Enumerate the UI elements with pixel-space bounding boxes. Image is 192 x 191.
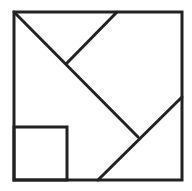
diagram-canvas	[0, 0, 192, 191]
small-square	[14, 127, 67, 180]
tangram-diagram	[0, 0, 192, 191]
main-diagonal-line	[14, 12, 138, 137]
upper-diagonal-line	[67, 12, 117, 63]
